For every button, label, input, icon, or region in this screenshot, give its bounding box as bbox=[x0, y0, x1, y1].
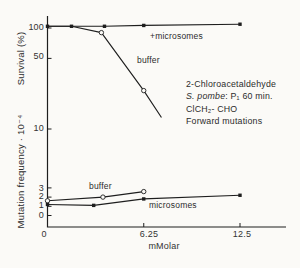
mutation-tick-0: 0 bbox=[20, 211, 44, 220]
marker-filled-square-survival-plus-microsomes bbox=[103, 25, 106, 28]
survival-tick-100: 100 bbox=[20, 23, 44, 32]
experiment-annotation: 2-Chloroacetaldehyde S. pombe: P₁ 60 min… bbox=[186, 78, 298, 127]
marker-filled-square-mutation-microsomes bbox=[238, 194, 241, 197]
annotation-conditions: : P₁ 60 min. bbox=[225, 91, 272, 101]
annotation-compound: 2-Chloroacetaldehyde bbox=[186, 78, 298, 90]
x-tick-6-25: 6.25 bbox=[135, 230, 163, 239]
marker-open-circle-survival-buffer bbox=[142, 88, 146, 92]
marker-filled-square-survival-plus-microsomes bbox=[238, 23, 241, 26]
annotation-assay: Forward mutations bbox=[186, 115, 298, 127]
series-line-mutation-buffer bbox=[48, 192, 144, 201]
marker-filled-square-mutation-microsomes bbox=[142, 197, 145, 200]
series-line-survival-buffer bbox=[48, 26, 162, 117]
x-tick-12-5: 12.5 bbox=[228, 230, 256, 239]
figure: Survival (%) Mutation frequency · 10⁻⁴ 1… bbox=[0, 0, 300, 268]
marker-filled-square-survival-plus-microsomes bbox=[142, 24, 145, 27]
x-axis-label: mMolar bbox=[134, 241, 194, 251]
label-survival-plus-microsomes: +microsomes bbox=[150, 31, 203, 41]
marker-filled-square-mutation-microsomes bbox=[92, 204, 95, 207]
label-survival-buffer: buffer bbox=[137, 55, 160, 65]
annotation-organism: S. pombe: P₁ 60 min. bbox=[186, 90, 298, 102]
survival-tick-10: 10 bbox=[20, 124, 44, 133]
survival-tick-50: 50 bbox=[20, 52, 44, 61]
label-mutation-buffer: buffer bbox=[89, 181, 112, 191]
marker-open-circle-survival-buffer bbox=[99, 30, 103, 34]
mutation-tick-1: 1 bbox=[20, 201, 44, 210]
marker-open-circle-mutation-buffer bbox=[142, 189, 146, 193]
marker-open-circle-mutation-buffer bbox=[45, 199, 49, 203]
annotation-formula: ClCH₂- CHO bbox=[186, 103, 298, 115]
x-tick-0: 0 bbox=[30, 230, 58, 239]
label-mutation-microsomes: microsomes bbox=[149, 200, 197, 210]
marker-filled-square-mutation-microsomes bbox=[46, 203, 49, 206]
annotation-species: S. pombe bbox=[186, 91, 225, 101]
marker-open-circle-mutation-buffer bbox=[101, 195, 105, 199]
